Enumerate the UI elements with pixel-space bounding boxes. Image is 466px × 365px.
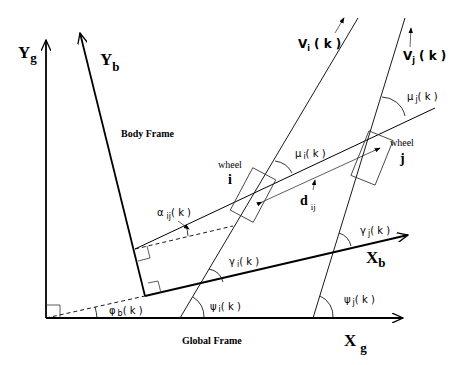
xg-label: Xg [344,331,367,355]
psi-i-arc [193,297,204,318]
kinematic-diagram: Yg Yb Xb Xg Body Frame Global Frame whee… [0,0,466,365]
mu-j-arc [382,97,405,116]
mu-i-arc [275,161,292,173]
wheel-axle-line [135,108,435,261]
xb-label: Xb [366,248,386,270]
body-axes [46,33,408,318]
alpha-arc [186,225,188,236]
phi-b-arc [95,307,97,318]
wheel-j-letter: j [399,151,405,166]
body-frame-label: Body Frame [121,128,175,139]
dij-label: dij [300,193,316,212]
global-axes [46,40,403,318]
yg-label: Yg [18,43,37,65]
wheel-i-caption: wheel [218,159,242,170]
psi-j-arc [320,296,333,318]
wheel-i-letter: i [228,172,232,187]
vi-arrow [335,18,344,33]
vj-line [313,18,405,318]
velocity-lines [180,18,411,318]
gamma-i-label: γi( k ) [229,256,259,269]
mu-i-label: μi( k ) [295,148,326,161]
mu-j-label: μj( k ) [407,91,438,104]
gamma-j-label: γj( k ) [360,225,390,238]
vj-label: Vj( k ) [403,49,446,65]
body-origin-right-angle [148,281,161,293]
phi-b-label: φb( k ) [109,305,143,318]
vj-arrow [410,28,411,47]
axle-right-angle [138,246,150,261]
dij-pointer [313,180,315,190]
psi-i-label: ψi( k ) [210,301,241,314]
gamma-j-arc [339,233,351,246]
global-frame-label: Global Frame [182,335,242,346]
vi-line [180,18,358,318]
alpha-ij-label: αij( k ) [157,207,191,221]
yb-label: Yb [100,50,120,74]
psi-j-label: ψj( k ) [344,294,375,307]
wheel-j-caption: wheel [390,137,414,148]
vi-label: Vi( k ) [298,37,341,53]
axle-dashed-reference [135,226,233,249]
